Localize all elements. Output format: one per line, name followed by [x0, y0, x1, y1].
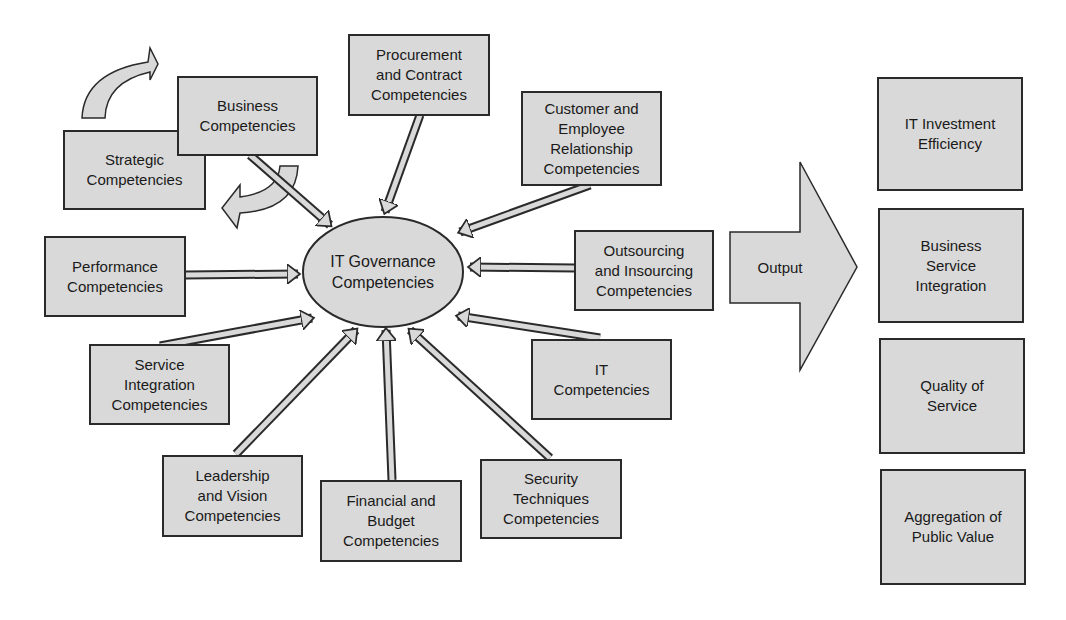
node-leadership-competencies: Leadership and Vision Competencies [162, 455, 303, 537]
node-customer-employee-competencies: Customer and Employee Relationship Compe… [521, 91, 662, 186]
outcome-it-investment-efficiency: IT Investment Efficiency [877, 77, 1023, 191]
node-financial-competencies: Financial and Budget Competencies [320, 480, 462, 562]
center-node-label: IT Governance Competencies [310, 245, 456, 299]
cycle-arrow-down-icon [222, 166, 298, 228]
cycle-arrow-up-icon [82, 48, 158, 118]
node-procurement-competencies: Procurement and Contract Competencies [348, 34, 490, 116]
outcome-business-service-integration: Business Service Integration [878, 208, 1024, 323]
output-arrow-label: Output [740, 257, 820, 279]
outcome-quality-of-service: Quality of Service [879, 338, 1025, 454]
node-service-integration-competencies: Service Integration Competencies [89, 344, 230, 425]
node-performance-competencies: Performance Competencies [44, 236, 186, 317]
node-outsourcing-competencies: Outsourcing and Insourcing Competencies [574, 230, 714, 311]
node-it-competencies: IT Competencies [531, 339, 672, 420]
node-business-competencies: Business Competencies [177, 76, 318, 156]
outcome-aggregation-public-value: Aggregation of Public Value [880, 469, 1026, 585]
node-security-competencies: Security Techniques Competencies [480, 459, 622, 539]
